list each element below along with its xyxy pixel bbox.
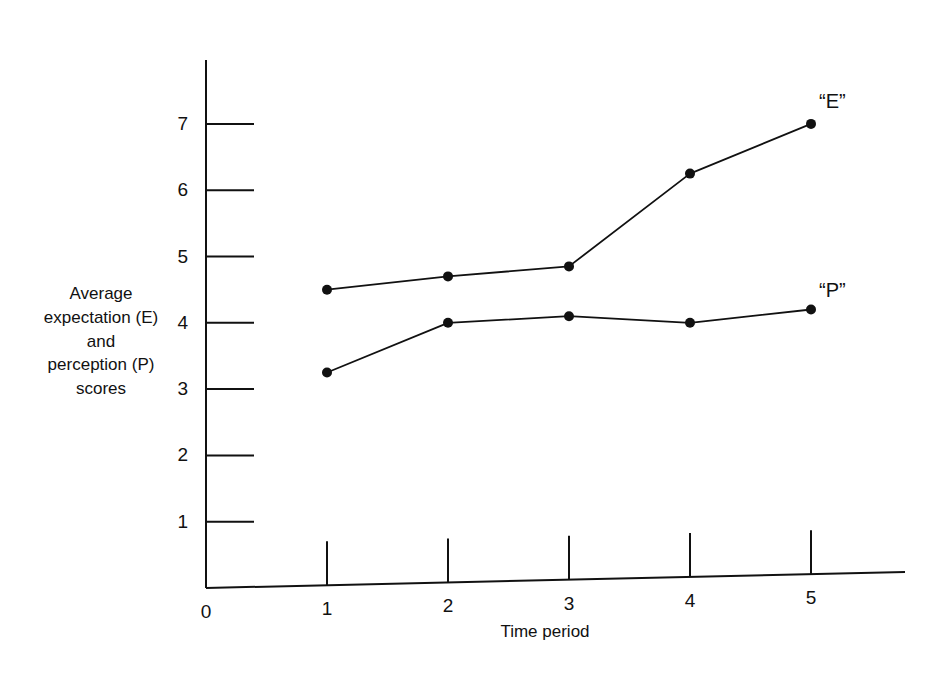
- y-tick-label-7: 7: [154, 114, 188, 133]
- y-tick-label-1: 1: [154, 512, 188, 531]
- y-tick-label-3: 3: [154, 379, 188, 398]
- x-axis-label: Time period: [455, 622, 635, 642]
- data-point-s0-x3: [564, 261, 574, 271]
- x-tick-marks: [327, 530, 811, 585]
- y-axis-label-line-2: and: [22, 330, 180, 354]
- x-tick-label-3: 3: [549, 594, 589, 613]
- y-tick-marks: [206, 124, 254, 522]
- data-point-s1-x2: [443, 318, 453, 328]
- data-point-s0-x4: [685, 169, 695, 179]
- x-tick-label-4: 4: [670, 591, 710, 610]
- series-label-P: “P”: [819, 280, 846, 300]
- y-axis-label-line-3: perception (P): [22, 353, 180, 377]
- figure-canvas: . . Averageexpectation (E)andperception …: [0, 0, 942, 678]
- data-point-s1-x1: [322, 368, 332, 378]
- x-tick-label-2: 2: [428, 596, 468, 615]
- x-axis-line: [206, 572, 905, 588]
- series-data-points: [322, 119, 816, 378]
- x-tick-label-1: 1: [307, 599, 347, 618]
- y-tick-label-2: 2: [154, 445, 188, 464]
- data-point-s0-x2: [443, 271, 453, 281]
- series-label-E: “E”: [819, 91, 846, 111]
- data-point-s0-x1: [322, 285, 332, 295]
- data-point-s1-x4: [685, 318, 695, 328]
- y-tick-label-6: 6: [154, 180, 188, 199]
- x-tick-label-5: 5: [791, 588, 831, 607]
- y-tick-label-5: 5: [154, 247, 188, 266]
- series-polylines: [327, 124, 811, 373]
- data-point-s0-x5: [806, 119, 816, 129]
- data-point-s1-x3: [564, 311, 574, 321]
- y-tick-label-4: 4: [154, 313, 188, 332]
- x-tick-label-0: 0: [186, 602, 226, 621]
- axis-lines: [206, 60, 905, 588]
- y-axis-label-line-0: Average: [22, 282, 180, 306]
- data-point-s1-x5: [806, 305, 816, 315]
